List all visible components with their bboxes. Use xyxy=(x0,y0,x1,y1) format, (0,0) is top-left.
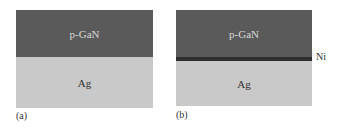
ag-label: Ag xyxy=(78,77,91,89)
ag-layer: Ag xyxy=(176,61,312,106)
p-gan-layer: p-GaN xyxy=(16,10,153,57)
p-gan-layer: p-GaN xyxy=(176,10,312,57)
panel-b: p-GaN Ag xyxy=(176,10,312,106)
caption-b: (b) xyxy=(176,109,188,120)
p-gan-label: p-GaN xyxy=(229,28,259,40)
ni-side-label: Ni xyxy=(316,51,326,62)
ag-label: Ag xyxy=(237,78,250,90)
panel-a: p-GaN Ag xyxy=(16,10,153,108)
p-gan-label: p-GaN xyxy=(70,28,100,40)
ag-layer: Ag xyxy=(16,57,153,108)
caption-a: (a) xyxy=(16,110,27,121)
